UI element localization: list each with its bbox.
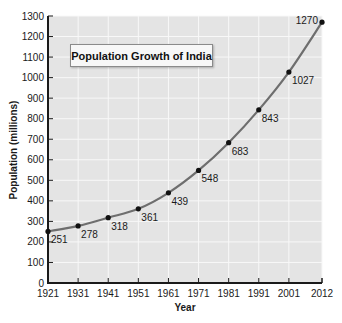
y-tick-label: 700 — [27, 134, 44, 145]
x-tick-label: 1941 — [97, 288, 120, 299]
x-tick-label: 1961 — [157, 288, 180, 299]
x-tick-label: 1921 — [37, 288, 60, 299]
y-tick-label: 1300 — [22, 11, 45, 22]
data-point — [106, 215, 111, 220]
y-tick-label: 200 — [27, 236, 44, 247]
x-tick-label: 2012 — [311, 288, 334, 299]
data-point — [76, 223, 81, 228]
data-label: 1027 — [292, 75, 315, 86]
data-point — [196, 168, 201, 173]
y-tick-label: 800 — [27, 113, 44, 124]
y-axis: 0100200300400500600700800900100011001200… — [22, 11, 53, 289]
data-point — [256, 107, 261, 112]
x-tick-label: 1971 — [187, 288, 210, 299]
x-tick-label: 2001 — [278, 288, 301, 299]
data-label: 251 — [51, 234, 68, 245]
chart-title: Population Growth of India — [70, 44, 213, 67]
x-tick-label: 1981 — [218, 288, 241, 299]
data-label: 439 — [171, 196, 188, 207]
data-label: 318 — [111, 221, 128, 232]
x-tick-label: 1951 — [127, 288, 150, 299]
data-label: 843 — [262, 113, 279, 124]
y-tick-label: 400 — [27, 195, 44, 206]
x-tick-label: 1991 — [248, 288, 271, 299]
y-tick-label: 100 — [27, 257, 44, 268]
data-label: 278 — [81, 229, 98, 240]
data-point — [226, 140, 231, 145]
data-point — [319, 20, 324, 25]
data-label: 548 — [202, 173, 219, 184]
data-point — [45, 229, 50, 234]
data-label: 1270 — [296, 15, 319, 26]
y-axis-title: Population (millions) — [8, 101, 19, 200]
y-tick-label: 600 — [27, 154, 44, 165]
data-label: 361 — [141, 212, 158, 223]
data-point — [286, 69, 291, 74]
y-tick-label: 1000 — [22, 72, 45, 83]
data-label: 683 — [232, 146, 249, 157]
y-tick-label: 0 — [38, 278, 44, 289]
y-tick-label: 1100 — [22, 52, 44, 63]
data-point — [136, 206, 141, 211]
data-point — [166, 190, 171, 195]
x-tick-label: 1931 — [67, 288, 90, 299]
x-axis-title: Year — [174, 302, 195, 313]
y-tick-label: 300 — [27, 216, 44, 227]
y-tick-label: 1200 — [22, 31, 45, 42]
y-tick-label: 500 — [27, 175, 44, 186]
y-tick-label: 900 — [27, 93, 44, 104]
